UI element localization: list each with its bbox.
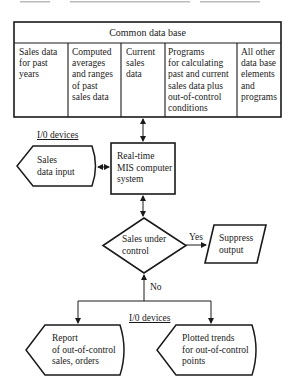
common-database-title: Common data base: [14, 27, 281, 39]
trends-label: Plotted trends for out-of-control points: [182, 333, 249, 368]
sales-data-input-label: Sales data input: [37, 155, 75, 178]
db-column-other-elements: All other data base elements and program…: [241, 47, 277, 103]
no-label: No: [150, 282, 162, 294]
decision-label: Sales under control: [122, 234, 166, 257]
db-column-computed-averages: Computed averages and ranges of past sal…: [72, 47, 113, 103]
db-column-programs: Programs for calculating past and curren…: [168, 47, 229, 114]
yes-label: Yes: [189, 232, 203, 244]
db-column-current-sales: Current sales data: [126, 47, 155, 81]
cropped-text-remnant: [20, 1, 260, 3]
mis-system-label: Real-time MIS computer system: [117, 151, 172, 186]
io-devices-label-bottom: I/0 devices: [129, 313, 170, 325]
io-devices-label-top: I/0 devices: [37, 130, 78, 142]
suppress-output-label: Suppress output: [219, 233, 253, 256]
report-label: Report of out-of-control sales, orders: [52, 333, 116, 368]
db-column-past-sales: Sales data for past years: [19, 47, 57, 81]
